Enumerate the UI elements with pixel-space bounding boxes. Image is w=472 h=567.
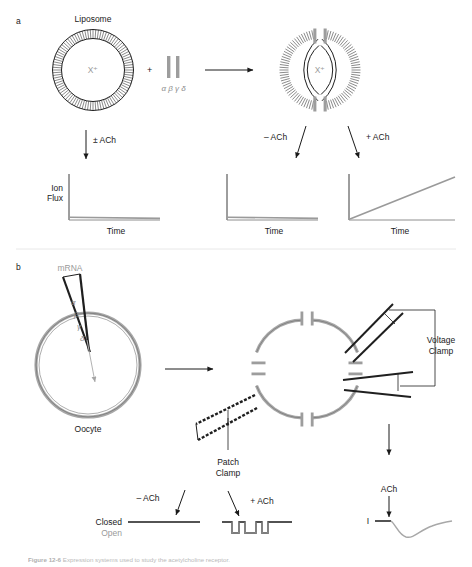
graph3-xlabel: Time [391, 226, 410, 236]
subunit-delta: δ [80, 334, 85, 343]
voltage-clamp-label-line2: Clamp [429, 346, 454, 356]
panel-b: b mRNA α β γ δ Oocyte [16, 262, 455, 538]
inserted-receptor-top [313, 29, 326, 44]
liposome-ion-label: X⁺ [88, 65, 99, 75]
single-channel-plus-ach [222, 522, 292, 533]
minus-ach-label-a: – ACh [264, 132, 287, 142]
panel-a: a Liposome X⁺ + α β γ δ [16, 14, 455, 236]
trace-inward-current [391, 521, 452, 537]
minus-ach-arrow-group-b: – ACh [136, 490, 185, 515]
graph-receptor-plus-ach: Time [349, 174, 455, 236]
plus-sign: + [147, 65, 152, 75]
liposome-label: Liposome [75, 14, 112, 24]
expressed-receptor-left [252, 362, 266, 376]
figure-caption: Figure 12-6 Expression systems used to s… [28, 556, 458, 567]
patch-clamp-pipette [196, 395, 257, 440]
oocyte-expressing: Voltage Clamp Patch Clamp [196, 304, 455, 478]
minus-ach-label-b: – ACh [136, 493, 159, 503]
minus-ach-arrow-group-a: – ACh [264, 126, 306, 158]
subunit-alpha: α [71, 298, 76, 307]
receptor-liposome-ion-label: X⁺ [315, 65, 326, 75]
caption-text: Expression systems used to study the ace… [63, 556, 230, 563]
liposome-with-receptors: X⁺ [280, 29, 361, 112]
panel-b-letter: b [16, 262, 21, 272]
single-channel-minus-ach: Closed Open [96, 517, 200, 538]
graph1-xlabel: Time [107, 226, 126, 236]
graph2-xlabel: Time [265, 226, 284, 236]
graph-receptor-no-ach: Time [227, 174, 318, 236]
current-label: I [367, 516, 369, 526]
injection-flow-arrow [87, 340, 95, 382]
expressed-receptor-bottom [301, 413, 314, 427]
graph1-ylabel-line1: Ion [51, 183, 63, 193]
inserted-receptor-bottom [313, 97, 326, 112]
panel-a-letter: a [16, 16, 21, 26]
graph1-ylabel-line2: Flux [47, 193, 64, 203]
voltage-clamp-label-line1: Voltage [427, 335, 456, 345]
expressed-receptor-top [301, 312, 314, 326]
mrna-label: mRNA [57, 263, 82, 273]
plus-ach-arrow-group-b: + ACh [228, 491, 274, 516]
expressed-receptor-right [349, 362, 363, 376]
subunits-label: α β γ δ [161, 84, 186, 93]
receptor-subunit-bars [167, 56, 179, 78]
trace-flat-2 [228, 217, 319, 218]
pm-ach-label: ± ACh [93, 135, 116, 145]
liposome-plain: Liposome X⁺ [53, 14, 134, 111]
figure-root: a Liposome X⁺ + α β γ δ [0, 0, 472, 567]
voltage-clamp-electrode-upper [345, 304, 403, 362]
trace-rising [350, 177, 455, 219]
graph-liposome-alone: Ion Flux Time [47, 174, 160, 236]
plus-ach-arrow-group-a: + ACh [348, 126, 390, 158]
whole-cell-current-trace: I ACh [367, 484, 452, 537]
patch-clamp-label-line1: Patch [217, 457, 239, 467]
plus-ach-label-b: + ACh [250, 496, 274, 506]
patch-clamp-label-line2: Clamp [216, 468, 241, 478]
subunit-beta: β [73, 310, 79, 319]
caption-prefix: Figure 12-6 [28, 556, 61, 563]
oocyte-label: Oocyte [75, 424, 102, 434]
oocyte-injection: mRNA α β γ δ Oocyte [36, 263, 140, 434]
pm-ach-arrow-group: ± ACh [86, 130, 116, 159]
open-label: Open [101, 528, 122, 538]
closed-label: Closed [96, 517, 123, 527]
trace-flat-1 [70, 217, 161, 218]
ach-label: ACh [381, 484, 398, 494]
plus-ach-label-a: + ACh [366, 132, 390, 142]
